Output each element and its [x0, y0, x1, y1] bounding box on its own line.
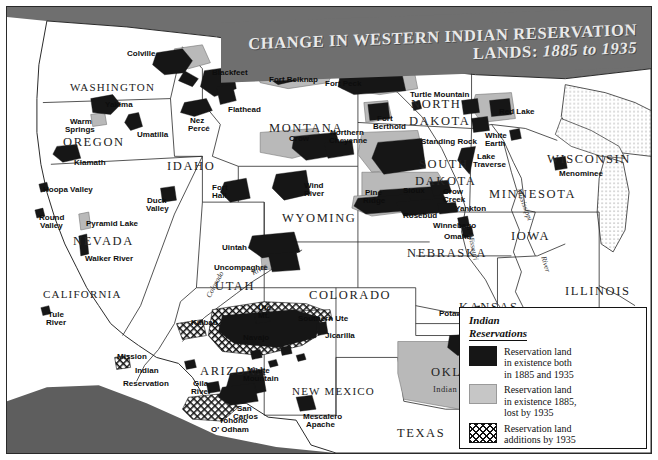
legend-black-line1: Reservation land — [504, 346, 574, 358]
legend-grey-line3: lost by 1935 — [504, 407, 576, 419]
legend-row-hatch: Reservation landadditions by 1935 — [469, 423, 639, 446]
legend-row-black: Reservation landin existence bothin 1885… — [469, 346, 639, 381]
legend-black-line3: in 1885 and 1935 — [504, 369, 574, 381]
legend-text-hatch: Reservation landadditions by 1935 — [504, 423, 576, 446]
legend-grey-line2: in existence 1885, — [504, 396, 576, 408]
legend-swatch-hatch — [469, 423, 497, 443]
map-legend: Indian Reservations Reservation landin e… — [459, 307, 647, 449]
legend-swatch-grey — [469, 384, 497, 404]
legend-hatch-line2: additions by 1935 — [504, 434, 576, 446]
legend-text-grey: Reservation landin existence 1885,lost b… — [504, 384, 576, 419]
legend-grey-line1: Reservation land — [504, 384, 576, 396]
legend-heading: Indian Reservations — [469, 314, 527, 341]
legend-heading-line-2: Reservations — [469, 327, 527, 340]
legend-text-black: Reservation landin existence bothin 1885… — [504, 346, 574, 381]
legend-entries: Reservation landin existence bothin 1885… — [469, 346, 639, 446]
map-frame: CHANGE IN WESTERN INDIAN RESERVATION LAN… — [6, 6, 652, 454]
legend-heading-line-1: Indian — [469, 314, 527, 327]
legend-hatch-line1: Reservation land — [504, 423, 576, 435]
legend-row-grey: Reservation landin existence 1885,lost b… — [469, 384, 639, 419]
map-figure: CHANGE IN WESTERN INDIAN RESERVATION LAN… — [0, 0, 658, 460]
legend-swatch-black — [469, 346, 497, 366]
legend-black-line2: in existence both — [504, 357, 574, 369]
